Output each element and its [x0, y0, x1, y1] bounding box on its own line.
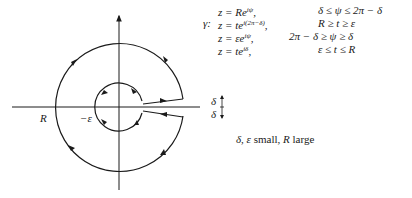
label-delta-bottom: δ	[211, 108, 216, 120]
eq-tail: ,	[251, 32, 254, 44]
arrow-icon	[68, 145, 75, 151]
assumption-note: δ, ε small, R large	[236, 133, 314, 145]
range-row-2: R ≥ t ≥ ε	[318, 17, 355, 30]
delta-arrow-up-icon	[220, 95, 224, 99]
range-row-4: ε ≤ t ≤ R	[318, 43, 355, 56]
eq-lhs: z =	[218, 45, 235, 57]
note-symbol-R: R	[283, 133, 290, 145]
eq-tail: ,	[248, 45, 251, 57]
eq-sup: i(2π−δ)	[243, 19, 265, 27]
arrow-icon	[160, 112, 167, 117]
direction-arrow-icons	[68, 56, 168, 155]
label-R: R	[40, 112, 47, 124]
label-neg-epsilon: −ε	[80, 112, 92, 124]
gamma-label: γ:	[203, 17, 211, 30]
eq-base: te	[235, 45, 243, 57]
delta-arrow-down-icon	[220, 115, 224, 119]
label-delta-top: δ	[211, 95, 216, 107]
note-text-large: large	[290, 133, 315, 145]
note-symbols: δ, ε	[236, 133, 251, 145]
eq-tail: ,	[265, 19, 268, 31]
arrow-icon	[101, 90, 108, 95]
note-text: small,	[251, 133, 283, 145]
eq-row-4: z = teiδ,	[218, 43, 251, 58]
range-row-1: δ ≤ ψ ≤ 2π − δ	[318, 4, 382, 17]
arrow-icon	[160, 98, 167, 103]
range-row-3: 2π − δ ≥ ψ ≥ δ	[289, 30, 353, 43]
